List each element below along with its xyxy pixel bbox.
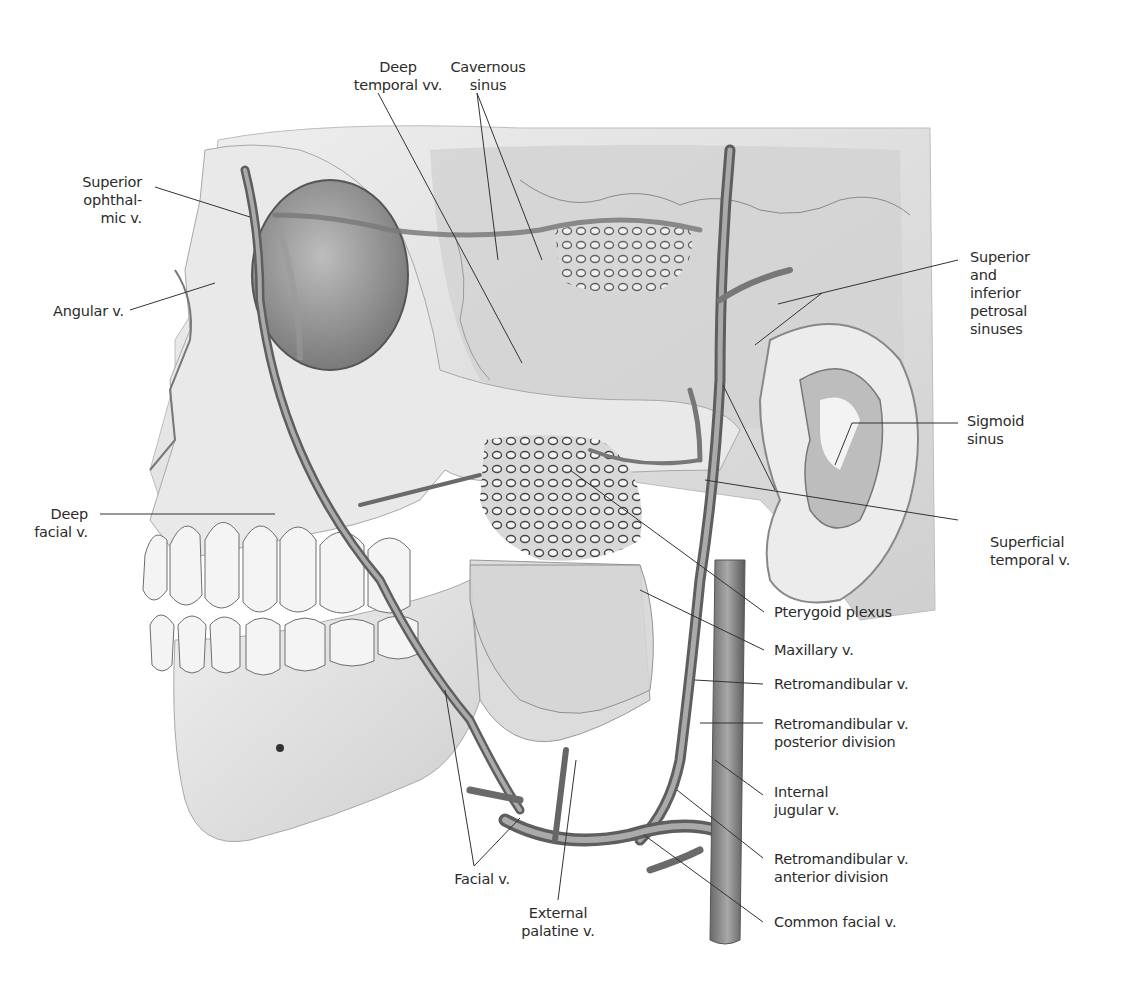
orbit (252, 180, 408, 370)
label-retromandibular-anterior-division: Retromandibular v. anterior division (774, 850, 994, 886)
label-retromandibular-vein: Retromandibular v. (774, 675, 994, 693)
label-pterygoid-plexus: Pterygoid plexus (774, 603, 974, 621)
label-external-palatine-vein: External palatine v. (498, 904, 618, 940)
label-retromandibular-posterior-division: Retromandibular v. posterior division (774, 715, 994, 751)
label-sigmoid-sinus: Sigmoid sinus (967, 412, 1067, 448)
label-superior-inferior-petrosal-sinuses: Superior and inferior petrosal sinuses (970, 248, 1100, 338)
label-deep-facial-vein: Deep facial v. (0, 505, 88, 541)
anatomy-figure: Deep temporal vv. Cavernous sinus Superi… (0, 0, 1124, 988)
label-maxillary-vein: Maxillary v. (774, 641, 974, 659)
pterygoid-plexus-mesh (480, 435, 642, 561)
internal-jugular-vein (710, 560, 745, 944)
skull-illustration (0, 0, 1124, 988)
label-common-facial-vein: Common facial v. (774, 913, 974, 931)
label-facial-vein: Facial v. (400, 870, 510, 888)
label-cavernous-sinus: Cavernous sinus (438, 58, 538, 94)
label-superficial-temporal-vein: Superficial temporal v. (990, 533, 1120, 569)
label-angular-vein: Angular v. (20, 302, 124, 320)
label-internal-jugular-vein: Internal jugular v. (774, 783, 974, 819)
label-superior-ophthalmic-vein: Superior ophthal- mic v. (40, 173, 142, 227)
